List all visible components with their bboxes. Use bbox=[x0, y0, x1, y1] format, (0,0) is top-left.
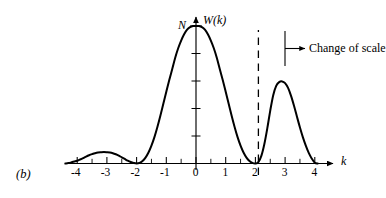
change-of-scale-leader bbox=[285, 31, 305, 66]
x-tick-label-minus4: -4 bbox=[71, 167, 81, 179]
x-tick-label-3: 3 bbox=[282, 167, 288, 179]
x-tick-label-0: 0 bbox=[193, 167, 199, 179]
x-tick-label-minus3: -3 bbox=[101, 167, 111, 179]
peak-value-label: N bbox=[178, 19, 186, 31]
x-axis-label: k bbox=[341, 155, 346, 167]
x-tick-label-4: 4 bbox=[312, 167, 318, 179]
x-tick-label-minus1: -1 bbox=[160, 167, 170, 179]
y-axis-label: W(k) bbox=[203, 14, 226, 26]
x-tick-label-minus2: -2 bbox=[130, 167, 140, 179]
x-axis-major-ticks bbox=[77, 157, 315, 164]
x-tick-label-2: 2 bbox=[252, 167, 258, 179]
change-of-scale-label: Change of scale bbox=[309, 42, 386, 54]
wk-curve bbox=[65, 26, 317, 164]
panel-label: (b) bbox=[16, 168, 31, 181]
x-tick-label-1: 1 bbox=[222, 167, 228, 179]
